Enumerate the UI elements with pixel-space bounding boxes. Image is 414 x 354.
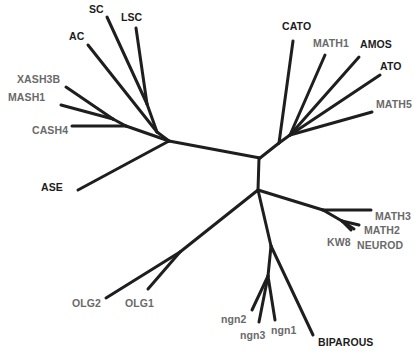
label-ac: AC: [69, 30, 84, 42]
branch-cato: [279, 41, 293, 143]
label-amos: AMOS: [360, 38, 392, 50]
label-ase: ASE: [41, 181, 63, 193]
label-olg2: OLG2: [72, 297, 101, 309]
branch-ase: [78, 141, 169, 190]
label-cash4: CASH4: [32, 124, 68, 136]
branch-backbone-vertical: [258, 158, 259, 190]
branch-ac: [88, 45, 157, 132]
branch-ngn1: [268, 276, 275, 320]
branch-math5: [290, 112, 372, 135]
branch-cash-stem: [126, 126, 169, 141]
branch-ngn-inner: [268, 246, 271, 276]
branch-neurod-inner: [323, 210, 342, 221]
label-math1: MATH1: [313, 37, 349, 49]
label-xash3b: XASH3B: [17, 73, 60, 85]
label-math5: MATH5: [376, 98, 412, 110]
branch-neurod-stem: [258, 190, 323, 210]
label-ato: ATO: [380, 60, 402, 72]
branch-biparous: [271, 246, 313, 335]
branch-backbone-left: [169, 141, 260, 158]
branch-olig-stem: [180, 190, 258, 252]
label-olg1: OLG1: [125, 297, 154, 309]
label-ngn3: ngn3: [240, 329, 265, 341]
branch-ngn-stem: [258, 190, 271, 246]
label-sc: SC: [89, 3, 104, 15]
phylogenetic-tree: [0, 0, 414, 354]
label-biparous: BIPAROUS: [318, 336, 373, 348]
label-cato: CATO: [282, 20, 311, 32]
label-lsc: LSC: [121, 11, 142, 23]
label-ngn1: ngn1: [271, 324, 296, 336]
label-mash1: MASH1: [8, 91, 45, 103]
branch-olg2: [106, 252, 180, 298]
label-kw8: KW8: [327, 236, 351, 248]
label-ngn2: ngn2: [221, 313, 246, 325]
label-math3: MATH3: [375, 210, 411, 222]
label-math2: MATH2: [364, 224, 400, 236]
label-neurod: NEUROD: [357, 239, 403, 251]
branch-backbone-atonal: [260, 143, 279, 158]
